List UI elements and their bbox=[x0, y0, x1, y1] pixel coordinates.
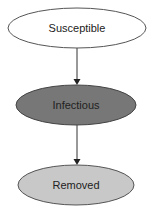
edge-infectious-to-removed bbox=[74, 125, 81, 165]
node-label: Infectious bbox=[52, 99, 100, 111]
edge-susceptible-to-infectious bbox=[74, 48, 81, 85]
node-susceptible: Susceptible bbox=[8, 8, 146, 48]
node-infectious: Infectious bbox=[16, 85, 136, 125]
node-removed: Removed bbox=[18, 165, 134, 205]
arrowhead-icon bbox=[74, 159, 81, 165]
node-label: Removed bbox=[52, 179, 99, 191]
arrowhead-icon bbox=[74, 79, 81, 85]
node-label: Susceptible bbox=[49, 22, 106, 34]
sir-flow-diagram: Susceptible Infectious Removed bbox=[0, 0, 154, 214]
